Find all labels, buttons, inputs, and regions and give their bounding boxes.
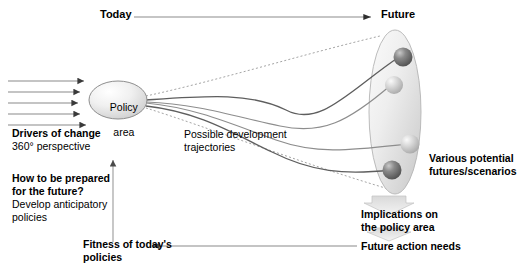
label-policy-area: Policy area (90, 89, 146, 151)
label-fitness-line1: Fitness of today's (83, 238, 172, 250)
label-futures-line1: Various potential (429, 152, 514, 164)
scenario-sphere-1 (394, 48, 413, 67)
label-drivers-of-change: Drivers of change (12, 127, 101, 139)
label-implications-line1: Implications on (361, 208, 438, 220)
label-trajectories-line1: Possible development (184, 128, 287, 140)
label-develop-line1: Develop anticipatory (12, 198, 107, 210)
label-policy-area-line2: area (113, 126, 134, 138)
label-future: Future (381, 8, 415, 21)
label-question-line1: How to be prepared (12, 172, 110, 184)
scenario-sphere-3 (401, 135, 420, 154)
label-futures-line2: futures/scenarios (429, 165, 517, 177)
scenario-sphere-4 (383, 161, 402, 180)
label-implications-line2: the policy area (361, 221, 435, 233)
label-policy-area-line1: Policy (110, 101, 138, 113)
label-fitness-line2: policies (83, 251, 122, 263)
label-question-line2: for the future? (12, 185, 84, 197)
label-trajectories-line2: trajectories (184, 141, 235, 153)
label-360-perspective: 360° perspective (12, 140, 90, 152)
scenario-sphere-2 (385, 76, 403, 94)
driver-arrows-group (8, 81, 86, 125)
label-develop-line2: policies (12, 211, 47, 223)
diagram-canvas: Today Future Policy area Drivers of chan… (0, 0, 525, 267)
label-future-action-needs: Future action needs (361, 240, 461, 252)
label-today: Today (100, 8, 132, 21)
